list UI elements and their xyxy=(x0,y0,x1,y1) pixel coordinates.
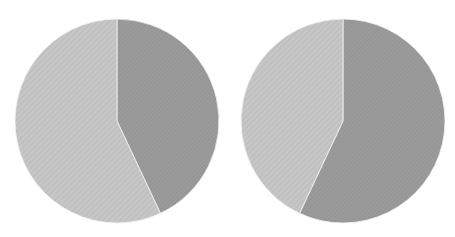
pie-chart-left xyxy=(15,19,219,223)
pie-chart-right xyxy=(241,19,445,223)
pie-charts-canvas xyxy=(0,0,455,237)
